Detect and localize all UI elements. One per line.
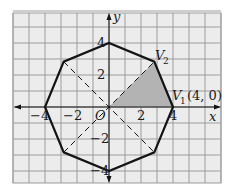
octagon-diagram: y x O −4 −2 2 4 4 2 −2 −4 V 2 V 1 (4, 0) — [0, 0, 233, 191]
y-tick-label-neg4: −4 — [90, 163, 109, 178]
x-axis-label: x — [209, 109, 217, 124]
v1-coordinates: (4, 0) — [187, 88, 222, 103]
y-tick-label-neg2: −2 — [90, 131, 109, 146]
y-tick-label-4: 4 — [97, 35, 105, 50]
x-tick-label-neg2: −2 — [63, 108, 82, 123]
y-axis-label: y — [112, 9, 121, 24]
x-tick-label-neg4: −4 — [30, 108, 49, 123]
y-tick-label-2: 2 — [97, 67, 105, 82]
origin-label: O — [95, 108, 106, 123]
x-tick-label-2: 2 — [137, 108, 145, 123]
svg-text:2: 2 — [163, 56, 169, 66]
svg-text:1: 1 — [180, 96, 186, 106]
x-tick-label-4: 4 — [169, 108, 177, 123]
